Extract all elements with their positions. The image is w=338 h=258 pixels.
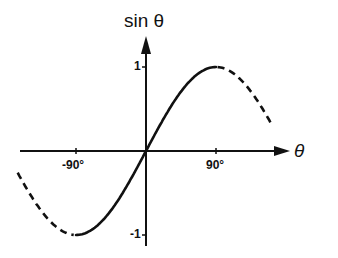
- sine-curve-dashed-right: [218, 67, 272, 125]
- tick-label-pos1: 1: [134, 59, 141, 73]
- tick-label-neg90: -90°: [62, 158, 84, 172]
- x-axis-label: θ: [294, 140, 304, 162]
- sine-plot: [0, 0, 338, 258]
- x-axis-arrow-icon: [274, 146, 290, 156]
- tick-label-neg1: -1: [130, 227, 141, 241]
- y-axis-label: sin θ: [124, 10, 164, 32]
- y-axis-arrow-icon: [141, 36, 151, 54]
- sine-curve-dashed-left: [18, 173, 74, 235]
- tick-label-pos90: 90°: [206, 158, 224, 172]
